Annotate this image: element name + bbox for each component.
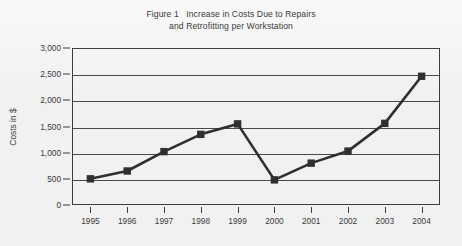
x-axis-tick-label: 1998 [192,216,210,226]
figure-title-line-2: and Retrofitting per Workstation [0,21,462,33]
figure-title-line-1: Figure 1 Increase in Costs Due to Repair… [0,9,462,21]
data-point-marker [234,120,241,127]
x-axis-tick-label: 1999 [228,216,246,226]
data-point-marker [344,147,351,154]
y-axis-tick-label: 500 [47,174,61,184]
figure-title: Figure 1 Increase in Costs Due to Repair… [0,9,462,32]
figure-page: Figure 1 Increase in Costs Due to Repair… [0,0,462,246]
y-axis-tick-mark [63,178,70,179]
y-axis-tick-label: 2,500 [40,69,61,79]
y-axis-tick-label: 3,000 [40,43,61,53]
data-series-line [72,48,440,205]
data-point-marker [271,176,278,183]
data-point-marker [308,159,315,166]
data-point-marker [87,175,94,182]
x-axis-tick-mark [348,207,349,213]
y-axis-tick-label: 0 [56,200,61,210]
x-axis-tick-mark [274,207,275,213]
y-axis-tick-mark [63,48,70,49]
x-axis-tick-label: 2001 [302,216,320,226]
y-axis-tick-mark [63,74,70,75]
y-axis-tick-label: 1,500 [40,122,61,132]
series-polyline [90,76,421,180]
data-point-marker [418,73,425,80]
x-axis-tick-mark [127,207,128,213]
x-axis-tick-mark [201,207,202,213]
x-axis-tick-label: 2002 [339,216,357,226]
x-axis-tick-mark [422,207,423,213]
x-axis-tick-label: 1997 [155,216,173,226]
x-axis-tick-label: 1995 [81,216,99,226]
data-point-marker [197,131,204,138]
x-axis-tick-mark [164,207,165,213]
x-axis-tick-mark [385,207,386,213]
x-axis-tick-group: 1995199619971998199920002001200220032004 [72,207,440,227]
y-axis-tick-mark [63,100,70,101]
x-axis-tick-mark [311,207,312,213]
x-axis-tick-label: 2003 [376,216,394,226]
x-axis-tick-mark [90,207,91,213]
y-axis-tick-mark [63,152,70,153]
y-axis-tick-label: 1,000 [40,148,61,158]
data-point-marker [160,148,167,155]
data-point-marker [381,120,388,127]
y-axis-tick-group: 05001,0001,5002,0002,5003,000 [0,48,70,205]
x-axis-tick-mark [238,207,239,213]
y-axis-tick-label: 2,000 [40,95,61,105]
x-axis-tick-label: 2000 [265,216,283,226]
x-axis-tick-label: 1996 [118,216,136,226]
data-point-marker [124,167,131,174]
x-axis-tick-label: 2004 [412,216,430,226]
y-axis-tick-mark [63,126,70,127]
y-axis-tick-mark [63,205,70,206]
